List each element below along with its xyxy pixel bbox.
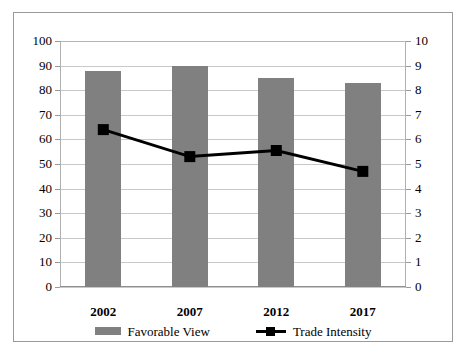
plot-area: 0010120230340450560670780890910010	[60, 41, 406, 287]
right-axis-tick-label: 7	[415, 108, 422, 121]
category-label: 2007	[147, 305, 234, 318]
line-marker	[184, 151, 195, 162]
left-axis-tick-label: 60	[39, 132, 52, 145]
right-axis-tick-label: 9	[415, 59, 422, 72]
chart-frame: 0010120230340450560670780890910010 20022…	[13, 12, 453, 342]
line-marker	[271, 145, 282, 156]
line-marker	[357, 166, 368, 177]
left-axis-tick-label: 90	[39, 59, 52, 72]
left-axis-tick-label: 80	[39, 83, 52, 96]
right-axis-tick-label: 4	[415, 182, 422, 195]
legend-label-trade-intensity: Trade Intensity	[293, 325, 372, 338]
right-axis-tick-label: 5	[415, 157, 422, 170]
right-axis-tick	[406, 115, 411, 116]
right-axis-tick	[406, 287, 411, 288]
right-axis-tick-label: 0	[415, 280, 422, 293]
left-axis-tick-label: 100	[33, 34, 53, 47]
right-axis-tick-label: 3	[415, 206, 422, 219]
trade-intensity-markers	[98, 124, 369, 177]
right-axis-tick	[406, 66, 411, 67]
line-marker-swatch-icon	[256, 326, 286, 337]
left-axis-tick-label: 70	[39, 108, 52, 121]
left-axis-tick-label: 40	[39, 182, 52, 195]
legend-item-favorable-view: Favorable View	[95, 325, 210, 338]
right-axis-tick	[406, 238, 411, 239]
legend-item-trade-intensity: Trade Intensity	[256, 325, 372, 338]
left-axis-tick-label: 10	[39, 255, 52, 268]
left-axis-tick-label: 0	[46, 280, 53, 293]
right-axis-tick	[406, 164, 411, 165]
legend-label-favorable-view: Favorable View	[128, 325, 210, 338]
left-axis-tick-label: 50	[39, 157, 52, 170]
chart-legend: Favorable View Trade Intensity	[14, 320, 452, 342]
category-label: 2017	[320, 305, 407, 318]
bar-swatch-icon	[95, 327, 121, 335]
category-label: 2012	[233, 305, 320, 318]
trade-intensity-line	[103, 130, 363, 172]
gridline	[60, 287, 406, 288]
right-axis-tick	[406, 189, 411, 190]
right-axis-tick	[406, 41, 411, 42]
right-axis-tick-label: 10	[415, 34, 428, 47]
right-axis-tick	[406, 90, 411, 91]
left-axis-tick-label: 30	[39, 206, 52, 219]
right-axis-tick-label: 8	[415, 83, 422, 96]
right-axis-tick	[406, 139, 411, 140]
right-axis-tick-label: 1	[415, 255, 422, 268]
left-axis-tick-label: 20	[39, 231, 52, 244]
right-axis-tick-label: 2	[415, 231, 422, 244]
category-label: 2002	[60, 305, 147, 318]
line-series-trade-intensity	[60, 41, 406, 287]
right-axis-tick-label: 6	[415, 132, 422, 145]
line-marker	[98, 124, 109, 135]
legend-square-marker-icon	[266, 327, 275, 336]
right-axis-tick	[406, 262, 411, 263]
right-axis-tick	[406, 213, 411, 214]
left-axis-tick	[55, 287, 60, 288]
